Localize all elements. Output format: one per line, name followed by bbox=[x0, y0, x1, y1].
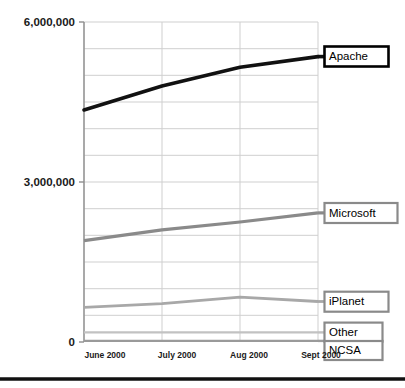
legend-label-apache: Apache bbox=[329, 50, 368, 62]
legend-label-other: Other bbox=[329, 326, 358, 338]
legend-item-other[interactable]: Other bbox=[325, 323, 383, 342]
legend-label-iplanet: iPlanet bbox=[329, 295, 365, 307]
chart-container: 6,000,000 3,000,000 0 Apache Microsoft bbox=[0, 0, 405, 388]
x-axis-label-aug-2000: Aug 2000 bbox=[230, 350, 268, 360]
x-axis-label-june-2000: June 2000 bbox=[84, 350, 125, 360]
y-axis-label-top: 6,000,000 bbox=[24, 16, 75, 28]
server-share-line-chart: 6,000,000 3,000,000 0 Apache Microsoft bbox=[0, 0, 405, 388]
legend-item-microsoft[interactable]: Microsoft bbox=[325, 203, 398, 223]
legend-item-apache[interactable]: Apache bbox=[325, 47, 389, 67]
legend-item-iplanet[interactable]: iPlanet bbox=[325, 292, 389, 312]
x-axis-label-sept-2000: Sept 2000 bbox=[301, 350, 341, 360]
y-axis-label-zero: 0 bbox=[69, 336, 75, 348]
y-axis-label-mid: 3,000,000 bbox=[24, 176, 75, 188]
legend-label-microsoft: Microsoft bbox=[329, 207, 376, 219]
x-axis-label-july-2000: July 2000 bbox=[158, 350, 197, 360]
